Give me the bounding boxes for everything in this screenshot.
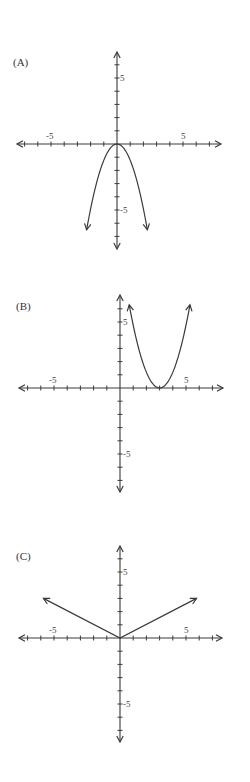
function-curve: [129, 305, 190, 388]
x-tick-label-neg5: -5: [46, 131, 54, 141]
graph-b-plot: -555-5: [0, 260, 250, 520]
y-tick-label-pos5: 5: [123, 317, 128, 327]
x-tick-label-neg5: -5: [49, 625, 57, 635]
x-tick-label-pos5: 5: [181, 131, 186, 141]
x-tick-label-pos5: 5: [184, 375, 189, 385]
graph-c-plot: -555-5: [0, 520, 250, 782]
graph-a-panel: (A) -555-5: [0, 0, 250, 260]
graph-b-panel: (B) -555-5: [0, 260, 250, 520]
y-tick-label-neg5: -5: [120, 205, 128, 215]
x-tick-label-pos5: 5: [184, 625, 189, 635]
y-tick-label-neg5: -5: [123, 699, 131, 709]
x-tick-label-neg5: -5: [49, 375, 57, 385]
y-tick-label-pos5: 5: [123, 567, 128, 577]
y-tick-label-neg5: -5: [123, 449, 131, 459]
graph-c-panel: (C) -555-5: [0, 520, 250, 782]
graph-a-plot: -555-5: [0, 0, 250, 260]
y-tick-label-pos5: 5: [120, 73, 125, 83]
